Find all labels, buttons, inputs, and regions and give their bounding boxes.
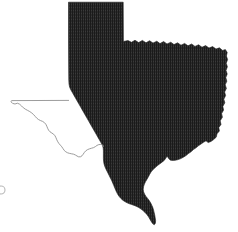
texas-map-svg — [0, 0, 238, 232]
map-figure — [0, 0, 238, 232]
